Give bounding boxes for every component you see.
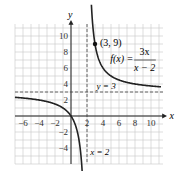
function-numerator: 3x <box>140 46 150 57</box>
y-tick-label: −4 <box>58 143 68 153</box>
point-label: (3, 9) <box>100 37 122 49</box>
x-tick-label: −4 <box>34 118 44 128</box>
y-tick-label: 4 <box>64 79 69 89</box>
chart: xy−6−4−2246810−4−2246810x = 2y = 3(3, 9)… <box>0 0 180 171</box>
y-tick-label: 8 <box>64 47 69 57</box>
function-denominator: x − 2 <box>133 62 155 73</box>
plot-area: xy−6−4−2246810−4−2246810x = 2y = 3(3, 9)… <box>0 0 180 171</box>
asymptote-label-x: x = 2 <box>89 147 110 157</box>
point-marker <box>93 42 97 46</box>
y-axis-arrow-icon <box>69 20 74 25</box>
y-tick-label: 6 <box>64 63 69 73</box>
y-tick-label: 2 <box>64 95 69 105</box>
y-tick-label: 10 <box>59 31 69 41</box>
y-axis-label: y <box>67 9 73 20</box>
x-tick-label: −6 <box>18 118 28 128</box>
x-axis-arrow-icon <box>162 114 167 119</box>
x-tick-label: 4 <box>101 118 106 128</box>
y-tick-label: −2 <box>58 127 68 137</box>
asymptote-label-y: y = 3 <box>96 81 117 91</box>
x-axis-label: x <box>168 110 174 121</box>
function-label: f(x) = <box>110 53 133 65</box>
x-tick-label: 8 <box>133 118 138 128</box>
x-tick-label: 10 <box>147 118 157 128</box>
curve-left-branch <box>15 97 82 171</box>
x-tick-label: 6 <box>117 118 122 128</box>
